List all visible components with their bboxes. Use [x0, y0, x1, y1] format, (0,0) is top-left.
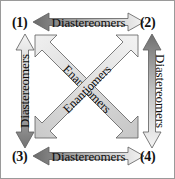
stereoisomer-relationship-diagram: Enantiomers Enantiomers Diastereomers Di…	[0, 0, 175, 179]
arrow-diastereomers-bottom: Diastereomers	[33, 147, 144, 165]
corner-label-1: (1)	[12, 16, 27, 30]
corner-label-2: (2)	[140, 16, 155, 30]
arrow-diastereomers-top: Diastereomers	[33, 13, 144, 31]
arrow-diastereomers-right: Diastereomers	[143, 34, 168, 148]
corner-label-3: (3)	[12, 150, 27, 164]
corner-label-4: (4)	[140, 150, 155, 164]
arrow-label-diastereomers-right: Diastereomers	[153, 54, 168, 128]
arrow-diastereomers-left: Diastereomers	[16, 34, 34, 148]
arrow-label-diastereomers-bottom: Diastereomers	[52, 149, 126, 164]
arrow-label-diastereomers-left: Diastereomers	[17, 54, 32, 128]
arrow-label-diastereomers-top: Diastereomers	[52, 15, 126, 30]
